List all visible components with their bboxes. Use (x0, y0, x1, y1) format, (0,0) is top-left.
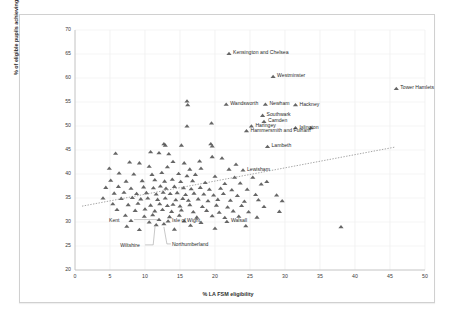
scatter-plot-svg (56, 22, 427, 288)
point-label: Hammersmith and Fulham (251, 128, 311, 133)
point-label: Isle of Wight (172, 218, 200, 223)
gridlines (75, 30, 425, 270)
point-label: Westminster (277, 73, 305, 78)
point-label: Walsall (231, 218, 247, 223)
point-label: Kent (109, 218, 119, 223)
point-label: Wiltshire (120, 243, 140, 248)
point-label: Wandsworth (230, 101, 258, 106)
trendline (82, 147, 395, 206)
point-label: Lambeth (272, 143, 292, 148)
plot-area: Kensington and ChelseaWestminsterTower H… (56, 22, 427, 288)
point-label: Newham (269, 101, 289, 106)
point-label: Hackney (300, 102, 320, 107)
point-label: Kensington and Chelsea (233, 50, 289, 55)
point-label: Tower Hamlets (400, 85, 434, 90)
point-label: Lewisham (247, 167, 270, 172)
y-axis-title: % of eligible pupils achieving level 5+ … (14, 0, 19, 75)
chart-container: % of eligible pupils achieving level 5+ … (19, 14, 435, 303)
x-axis-title: % LA FSM eligibility (20, 292, 436, 297)
point-label: Northumberland (172, 242, 209, 247)
